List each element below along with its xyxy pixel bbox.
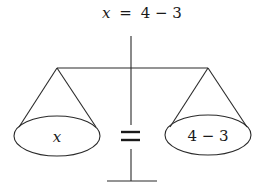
right-pan-string-right xyxy=(208,68,247,127)
left-pan: x xyxy=(14,68,100,156)
right-pan-label: 4 − 3 xyxy=(187,127,228,145)
equation-title: x = 4 − 3 xyxy=(102,4,182,22)
right-pan-string-left xyxy=(170,68,208,127)
center-equals-sign xyxy=(121,132,140,140)
title-expression: 4 − 3 xyxy=(141,4,182,22)
right-pan: 4 − 3 xyxy=(165,68,251,155)
left-pan-label: x xyxy=(53,128,62,146)
title-variable: x xyxy=(102,4,111,22)
title-equals: = xyxy=(119,4,132,22)
balance-scale-diagram: x = 4 − 3 x 4 − 3 xyxy=(0,0,266,194)
